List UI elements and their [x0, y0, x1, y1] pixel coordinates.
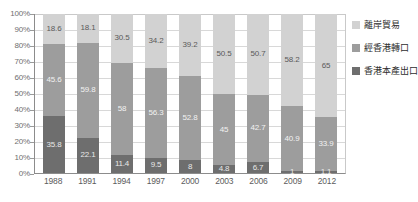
x-tick-label: 2012 [316, 176, 338, 192]
bar-value-label: 45 [220, 126, 229, 134]
bar-column[interactable]: 18.645.635.8 [43, 14, 65, 173]
bar-segment-reexport[interactable]: 59.8 [77, 43, 99, 138]
bar-segment-offshore[interactable]: 65 [315, 14, 337, 117]
bar-value-label: 11.4 [115, 160, 129, 168]
y-tick-label: 60% [15, 74, 30, 82]
plot-area: 18.645.635.818.159.822.130.55811.434.256… [34, 14, 346, 174]
bar-column[interactable]: 50.5454.8 [213, 14, 235, 173]
y-tick-label: 10% [15, 154, 30, 162]
bar-segment-domestic[interactable]: 8 [179, 160, 201, 173]
bar-segment-reexport[interactable]: 56.3 [145, 68, 167, 158]
y-tick-label: 20% [15, 138, 30, 146]
bar-value-label: 50.5 [217, 50, 232, 58]
y-tick-label: 90% [15, 26, 30, 34]
bar-value-label: 30.5 [115, 34, 130, 42]
bar-value-label: 42.7 [251, 124, 266, 132]
bar-segment-reexport[interactable]: 40.9 [281, 106, 303, 171]
bar-segment-reexport[interactable]: 42.7 [247, 95, 269, 163]
bar-value-label: 33.9 [319, 140, 334, 148]
x-tick-label: 2000 [179, 176, 201, 192]
bar-value-label: 59.8 [81, 86, 96, 94]
y-tick-mark [30, 174, 34, 175]
bar-segment-offshore[interactable]: 50.7 [247, 14, 269, 95]
bar-value-label: 8 [188, 163, 192, 171]
y-tick-label: 50% [15, 90, 30, 98]
x-tick-label: 1994 [111, 176, 133, 192]
legend-swatch-icon [352, 21, 360, 29]
bar-segment-offshore[interactable]: 30.5 [111, 14, 133, 63]
legend-label: 經香港轉口 [364, 43, 409, 53]
legend-item[interactable]: 離岸貿易 [352, 20, 417, 30]
bar-value-label: 18.6 [47, 25, 62, 33]
legend-item[interactable]: 經香港轉口 [352, 43, 417, 53]
bar-segment-domestic[interactable]: 35.8 [43, 116, 65, 173]
bar-value-label: 65 [322, 62, 331, 70]
bar-column[interactable]: 30.55811.4 [111, 14, 133, 173]
bar-value-label: 58 [118, 105, 127, 113]
bar-value-label: 58.2 [285, 56, 300, 64]
y-tick-label: 80% [15, 42, 30, 50]
bar-segment-offshore[interactable]: 18.1 [77, 14, 99, 43]
legend-swatch-icon [352, 67, 360, 75]
legend-label: 香港本產出口 [364, 66, 418, 76]
bar-column[interactable]: 50.742.76.7 [247, 14, 269, 173]
bar-segment-reexport[interactable]: 33.9 [315, 117, 337, 171]
bar-value-label: 6.7 [253, 164, 264, 172]
bar-column[interactable]: 58.240.91 [281, 14, 303, 173]
bar-segment-domestic[interactable]: 11.4 [111, 155, 133, 173]
bar-value-label: 45.6 [47, 76, 62, 84]
bar-value-label: 34.2 [149, 37, 164, 45]
y-axis: 0%10%20%30%40%50%60%70%80%90%100% [0, 14, 34, 174]
x-tick-label: 1991 [76, 176, 98, 192]
y-tick-label: 30% [15, 122, 30, 130]
bar-segment-domestic[interactable]: 1.1 [315, 171, 337, 173]
bar-value-label: 18.1 [81, 24, 96, 32]
bar-column[interactable]: 18.159.822.1 [77, 14, 99, 173]
bar-value-label: 9.5 [151, 161, 162, 169]
x-tick-label: 2006 [247, 176, 269, 192]
x-tick-label: 2009 [282, 176, 304, 192]
bar-value-label: 1 [290, 168, 294, 176]
bar-value-label: 22.1 [81, 151, 96, 159]
bar-value-label: 39.2 [183, 41, 198, 49]
bar-segment-domestic[interactable]: 9.5 [145, 158, 167, 173]
bar-segment-domestic[interactable]: 4.8 [213, 165, 235, 173]
legend-label: 離岸貿易 [364, 20, 400, 30]
bar-column[interactable]: 39.252.88 [179, 14, 201, 173]
bar-segment-offshore[interactable]: 18.6 [43, 14, 65, 44]
y-tick-label: 0% [19, 170, 30, 178]
bar-segment-reexport[interactable]: 45 [213, 94, 235, 165]
bar-value-label: 50.7 [251, 50, 266, 58]
bar-segment-offshore[interactable]: 34.2 [145, 14, 167, 68]
bar-segment-domestic[interactable]: 22.1 [77, 138, 99, 173]
bar-column[interactable]: 34.256.39.5 [145, 14, 167, 173]
y-tick-label: 40% [15, 106, 30, 114]
bar-segment-reexport[interactable]: 52.8 [179, 76, 201, 160]
bar-value-label: 52.8 [183, 114, 198, 122]
x-tick-label: 2003 [213, 176, 235, 192]
bar-value-label: 40.9 [285, 135, 300, 143]
bars-layer: 18.645.635.818.159.822.130.55811.434.256… [35, 14, 345, 173]
bar-segment-reexport[interactable]: 58 [111, 63, 133, 155]
bar-segment-domestic[interactable]: 1 [281, 171, 303, 173]
bar-value-label: 56.3 [149, 109, 164, 117]
bar-segment-domestic[interactable]: 6.7 [247, 162, 269, 173]
bar-value-label: 4.8 [219, 165, 230, 173]
bar-value-label: 35.8 [47, 141, 62, 149]
chart-legend: 離岸貿易經香港轉口香港本產出口 [352, 20, 417, 89]
bar-value-label: 1.1 [321, 168, 332, 176]
legend-item[interactable]: 香港本產出口 [352, 66, 417, 76]
bar-segment-offshore[interactable]: 39.2 [179, 14, 201, 76]
legend-swatch-icon [352, 44, 360, 52]
bar-column[interactable]: 6533.91.1 [315, 14, 337, 173]
x-axis: 198819911994199720002003200620092012 [34, 176, 346, 192]
x-tick-label: 1997 [145, 176, 167, 192]
bar-segment-offshore[interactable]: 58.2 [281, 14, 303, 106]
x-tick-label: 1988 [42, 176, 64, 192]
y-tick-label: 70% [15, 58, 30, 66]
bar-segment-reexport[interactable]: 45.6 [43, 44, 65, 117]
y-tick-label: 100% [10, 10, 30, 18]
bar-segment-offshore[interactable]: 50.5 [213, 14, 235, 94]
